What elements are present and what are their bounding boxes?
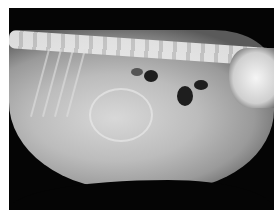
pelvis-region [229, 48, 274, 108]
gas-pocket [194, 80, 208, 90]
table-shadow [9, 180, 274, 210]
radiograph-image [9, 8, 274, 210]
intestinal-mass [89, 88, 153, 142]
gas-pocket [131, 68, 143, 76]
gas-pocket [177, 86, 193, 106]
gas-pocket [144, 70, 158, 82]
